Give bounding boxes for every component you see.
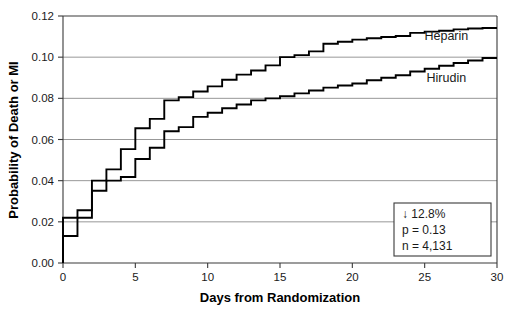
stats-reduction-text: ↓ 12.8% xyxy=(402,207,446,221)
x-tick-label-5: 5 xyxy=(132,271,138,283)
x-tick-label-10: 10 xyxy=(201,271,214,283)
stats-pvalue-text: p = 0.13 xyxy=(402,223,446,237)
chart-figure: 051015202530 0.000.020.040.060.080.100.1… xyxy=(0,0,509,309)
x-tick-label-15: 15 xyxy=(274,271,287,283)
y-tick-label-0.06: 0.06 xyxy=(32,134,54,146)
y-tick-label-0.08: 0.08 xyxy=(32,92,54,104)
y-tick-label-0.00: 0.00 xyxy=(32,257,54,269)
kaplan-meier-chart: 051015202530 0.000.020.040.060.080.100.1… xyxy=(0,0,509,309)
stats-annotation-box: ↓ 12.8% p = 0.13 n = 4,131 xyxy=(394,203,491,256)
y-tick-label-0.02: 0.02 xyxy=(32,216,54,228)
x-tick-label-25: 25 xyxy=(418,271,431,283)
x-axis-title: Days from Randomization xyxy=(200,290,360,305)
y-tick-label-0.12: 0.12 xyxy=(32,10,54,22)
series-label-heparin: Heparin xyxy=(424,29,468,43)
x-tick-label-30: 30 xyxy=(491,271,504,283)
stats-n-text: n = 4,131 xyxy=(402,239,453,253)
y-axis-title: Probability of Death or MI xyxy=(6,61,21,218)
x-tick-label-0: 0 xyxy=(60,271,66,283)
y-tick-label-0.10: 0.10 xyxy=(32,51,54,63)
series-label-hirudin: Hirudin xyxy=(427,71,467,85)
y-tick-label-0.04: 0.04 xyxy=(32,175,55,187)
x-tick-label-20: 20 xyxy=(346,271,359,283)
